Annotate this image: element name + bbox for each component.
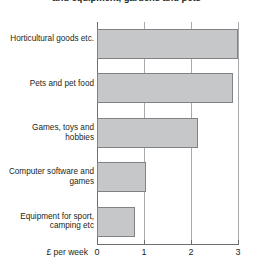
category-label: Computer software and games [2, 167, 94, 186]
chart-title: and equipment, gardens and pets [0, 0, 253, 3]
x-tick-label: 0 [87, 247, 107, 257]
bar [97, 207, 135, 237]
x-axis-line [97, 244, 238, 245]
category-label: Equipment for sport, camping etc [2, 212, 94, 231]
bar-row [97, 155, 238, 199]
bar [97, 162, 146, 192]
bar-chart: and equipment, gardens and pets Horticul… [0, 0, 253, 265]
bar-row [97, 200, 238, 244]
bar [97, 29, 238, 59]
bar [97, 73, 233, 103]
x-tick-label: 3 [228, 247, 248, 257]
bar [97, 118, 198, 148]
category-label: Horticultural goods etc. [2, 34, 94, 44]
gridline [238, 22, 239, 244]
x-axis-title: £ per week [0, 247, 88, 257]
bar-row [97, 111, 238, 155]
category-label: Pets and pet food [2, 79, 94, 89]
axis-tick [238, 240, 239, 245]
bar-row [97, 66, 238, 110]
x-tick-label: 1 [134, 247, 154, 257]
x-tick-label: 2 [181, 247, 201, 257]
category-label: Games, toys and hobbies [2, 123, 94, 142]
bar-row [97, 22, 238, 66]
